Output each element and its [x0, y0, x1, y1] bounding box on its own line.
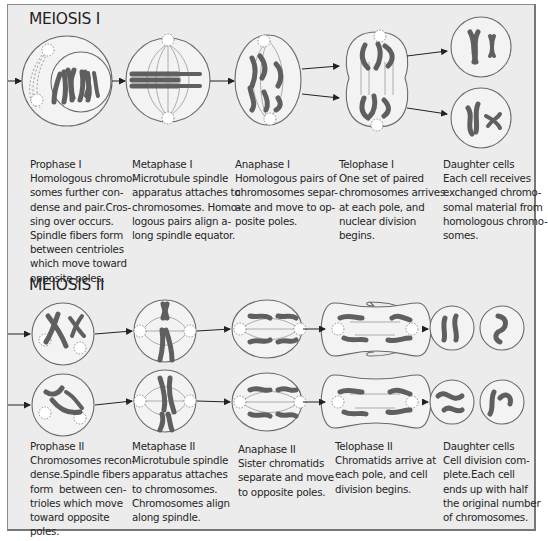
caption-daughter-cells-i: Daughter cellsEach cell receivesexchange… — [443, 157, 548, 242]
caption-line: somes further con- — [30, 185, 136, 199]
caption-line: homologous chromo- — [443, 214, 548, 228]
daughter-cell-ii-1 — [430, 306, 474, 350]
caption-line: the original number — [443, 496, 540, 510]
caption-line: sing over occurs. — [30, 214, 136, 228]
caption-line: Microtubule spindle — [132, 453, 230, 467]
caption-line: Microtubule spindle — [132, 171, 241, 185]
caption-line: plete.Each cell — [443, 467, 540, 481]
caption-line: of chromosomes. — [443, 510, 540, 524]
caption-line: begins. — [339, 228, 445, 242]
caption-line: chromosomes. Homo- — [132, 200, 241, 214]
prophase-ii-cell-bottom — [32, 374, 94, 436]
caption-line: opposite poles. — [30, 271, 136, 285]
caption-line: long spindle equator. — [132, 228, 241, 242]
caption-anaphase-i: Anaphase IHomologous pairs ofchromosomes… — [235, 157, 338, 228]
caption-line: poles. — [30, 524, 135, 538]
stage-name: Anaphase II — [238, 442, 334, 456]
caption-line: Chromatids arrive at — [335, 453, 436, 467]
stage-name: Telophase II — [335, 439, 436, 453]
caption-line: nuclear division — [339, 214, 445, 228]
caption-line: exchanged chromo- — [443, 185, 548, 199]
caption-telophase-i: Telophase IOne set of pairedchromosomes … — [339, 157, 445, 242]
caption-line: Homologous pairs of — [235, 171, 338, 185]
caption-line: to opposite poles. — [238, 485, 334, 499]
caption-telophase-ii: Telophase IIChromatids arrive ateach pol… — [335, 439, 436, 496]
caption-line: somes. — [443, 228, 548, 242]
caption-line: Chromosomes align — [132, 496, 230, 510]
caption-line: between centrioles — [30, 242, 136, 256]
stage-name: Prophase II — [30, 439, 135, 453]
stage-name: Daughter cells — [443, 157, 548, 171]
stage-name: Telophase I — [339, 157, 445, 171]
caption-line: dense and pair.Cros- — [30, 200, 136, 214]
caption-prophase-ii: Prophase IIChromosomes recon-dense.Spind… — [30, 439, 135, 538]
caption-line: each pole, and cell — [335, 467, 436, 481]
caption-line: Homologous chromo- — [30, 171, 136, 185]
caption-prophase-i: Prophase IHomologous chromo-somes furthe… — [30, 157, 136, 285]
caption-line: to chromosomes. — [132, 482, 230, 496]
daughter-cell-i-top — [451, 17, 511, 77]
caption-line: which move toward — [30, 256, 136, 270]
caption-line: separate and move — [238, 470, 334, 484]
caption-line: somal material from — [443, 200, 548, 214]
caption-line: chromosomes separ- — [235, 185, 338, 199]
stage-name: Metaphase II — [132, 439, 230, 453]
caption-line: trioles which move — [30, 496, 135, 510]
stage-name: Anaphase I — [235, 157, 338, 171]
caption-metaphase-ii: Metaphase IIMicrotubule spindleapparatus… — [132, 439, 230, 524]
caption-line: at each pole, and — [339, 200, 445, 214]
caption-line: ends up with half — [443, 482, 540, 496]
caption-line: Spindle fibers form — [30, 228, 136, 242]
caption-metaphase-i: Metaphase IMicrotubule spindleapparatus … — [132, 157, 241, 242]
caption-line: apparatus attaches — [132, 467, 230, 481]
caption-line: apparatus attaches to — [132, 185, 241, 199]
caption-line: chromosomes arrives — [339, 185, 445, 199]
caption-line: Each cell receives — [443, 171, 548, 185]
stage-name: Metaphase I — [132, 157, 241, 171]
caption-line: Cell division com- — [443, 453, 540, 467]
caption-anaphase-ii: Anaphase IISister chromatidsseparate and… — [238, 442, 334, 499]
daughter-cell-ii-3 — [430, 380, 474, 424]
stage-name: Daughter cells — [443, 439, 540, 453]
caption-line: Chromosomes recon- — [30, 453, 135, 467]
caption-line: dense.Spindle fibers — [30, 467, 135, 481]
caption-line: along spindle. — [132, 510, 230, 524]
stage-name: Prophase I — [30, 157, 136, 171]
caption-line: ate and move to op- — [235, 200, 338, 214]
caption-line: Sister chromatids — [238, 456, 334, 470]
caption-line: form between cen- — [30, 482, 135, 496]
caption-line: One set of paired — [339, 171, 445, 185]
caption-line: division begins. — [335, 482, 436, 496]
caption-line: toward opposite — [30, 510, 135, 524]
caption-line: posite poles. — [235, 214, 338, 228]
daughter-cell-ii-4 — [480, 380, 524, 424]
caption-line: logous pairs align a- — [132, 214, 241, 228]
daughter-cell-i-bottom — [451, 88, 511, 148]
caption-daughter-cells-ii: Daughter cellsCell division com-plete.Ea… — [443, 439, 540, 524]
